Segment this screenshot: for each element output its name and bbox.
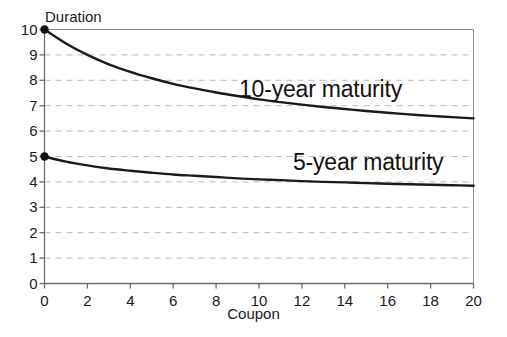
y-tick-label-5: 5: [14, 148, 38, 165]
x-tick-label-6: 6: [160, 292, 186, 309]
y-tick-label-3: 3: [14, 198, 38, 215]
x-tick-label-8: 8: [203, 292, 229, 309]
y-tick-label-9: 9: [14, 46, 38, 63]
y-tick-label-4: 4: [14, 173, 38, 190]
x-tick-label-2: 2: [74, 292, 100, 309]
y-axis-title: Duration: [45, 8, 102, 25]
series-label-5-year-maturity: 5-year maturity: [293, 149, 443, 176]
x-tick-label-10: 10: [246, 292, 272, 309]
x-tick-label-4: 4: [117, 292, 143, 309]
y-tick-label-0: 0: [14, 275, 38, 292]
series-line-1: [45, 30, 474, 119]
x-tick-label-16: 16: [375, 292, 401, 309]
x-tick-label-20: 20: [461, 292, 487, 309]
y-tick-label-6: 6: [14, 122, 38, 139]
y-tick-label-1: 1: [14, 249, 38, 266]
y-tick-label-2: 2: [14, 224, 38, 241]
series-marker-2: [40, 152, 48, 160]
x-tick-label-14: 14: [332, 292, 358, 309]
x-tick-label-0: 0: [32, 292, 58, 309]
series-marker-1: [40, 25, 48, 33]
duration-vs-coupon-chart: Duration Coupon 10-year maturity 5-year …: [0, 0, 507, 337]
series-label-10-year-maturity: 10-year maturity: [239, 76, 402, 103]
y-tick-label-8: 8: [14, 71, 38, 88]
x-tick-label-18: 18: [418, 292, 444, 309]
y-tick-label-10: 10: [14, 21, 38, 38]
y-tick-label-7: 7: [14, 97, 38, 114]
x-tick-label-12: 12: [289, 292, 315, 309]
